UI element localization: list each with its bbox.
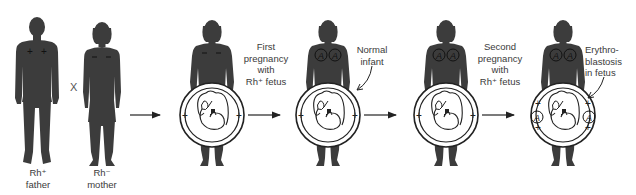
father-label: Rh⁺ father <box>20 167 56 190</box>
erythroblastosis-label: Erythro- blastosis in fetus <box>585 44 633 79</box>
rh-inheritance-diagram: A + + + + <box>0 0 636 195</box>
svg-text:+: + <box>535 122 541 133</box>
svg-text:+: + <box>41 46 47 57</box>
svg-text:+: + <box>352 110 358 121</box>
mother-silhouette <box>83 22 121 166</box>
first-pregnancy-label: First pregnancy with Rh⁺ fetus <box>236 41 296 87</box>
mother-text: mother <box>82 179 122 191</box>
svg-text:+: + <box>182 110 188 121</box>
svg-text:+: + <box>535 98 541 109</box>
svg-text:+: + <box>298 110 304 121</box>
svg-text:+: + <box>585 98 591 109</box>
svg-text:+: + <box>236 110 242 121</box>
mother-label: Rh⁻ mother <box>82 167 122 190</box>
normal-infant-label: Normal infant <box>350 44 394 67</box>
father-silhouette: + + <box>15 17 59 164</box>
pregnant-mother-2: + + <box>296 20 360 166</box>
pointer-arrow-erythroblastosis <box>588 77 604 98</box>
svg-text:+: + <box>416 110 422 121</box>
pregnant-mother-1: + + <box>180 20 244 166</box>
father-text: father <box>20 179 56 191</box>
second-pregnancy-label: Second pregnancy with Rh⁺ fetus <box>470 41 530 87</box>
pregnant-mother-3: + + <box>414 20 478 166</box>
svg-text:+: + <box>470 110 476 121</box>
mother-rh-label: Rh⁻ <box>82 167 122 179</box>
father-rh-label: Rh⁺ <box>20 167 56 179</box>
svg-text:+: + <box>585 122 591 133</box>
pregnant-mother-4: + + + + <box>531 20 595 166</box>
svg-text:+: + <box>27 46 33 57</box>
cross-symbol: X <box>70 81 77 93</box>
